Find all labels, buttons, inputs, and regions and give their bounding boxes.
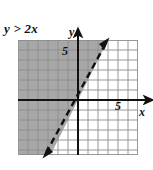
y-axis-label: y <box>69 25 74 40</box>
plot-area <box>18 40 138 155</box>
grid-and-shading <box>18 40 138 155</box>
x-tick-label-5: 5 <box>115 99 121 114</box>
inequality-label: y > 2x <box>4 21 38 37</box>
x-axis-label: x <box>139 105 145 120</box>
y-tick-label-5: 5 <box>62 44 68 59</box>
graph-figure: y > 2x <box>0 0 153 170</box>
